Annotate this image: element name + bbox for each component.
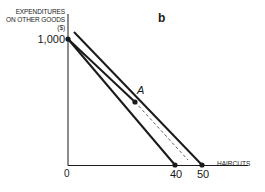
dashed-line	[135, 102, 188, 160]
budget-line-kinked	[68, 39, 135, 102]
point-40	[172, 162, 177, 167]
budget-line-original	[68, 39, 175, 165]
budget-line-shifted	[74, 32, 202, 165]
point-a	[132, 99, 137, 104]
point-50	[199, 162, 204, 167]
chart-plot	[0, 0, 265, 192]
point-1000	[65, 36, 70, 41]
